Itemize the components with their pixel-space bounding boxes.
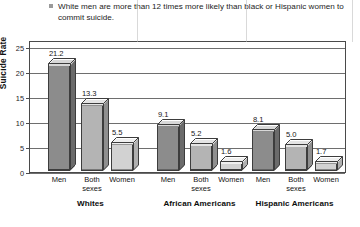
bar-value-label: 5.5 <box>112 128 122 137</box>
y-tick-5 <box>26 148 30 149</box>
bar-side-face <box>70 60 75 171</box>
category-label: Women <box>218 176 244 185</box>
bar-value-label: 1.7 <box>316 147 326 156</box>
plot-area: 051015202521.213.35.59.15.21.68.15.01.7 <box>29 41 346 173</box>
gridline-15 <box>30 98 345 99</box>
y-tick-25 <box>26 48 30 49</box>
bar-front-face <box>190 145 212 171</box>
bar-side-face <box>103 100 108 172</box>
gridline-20 <box>30 73 345 74</box>
gridline-10 <box>30 123 345 124</box>
scan-artifact <box>246 0 247 42</box>
category-label: Men <box>256 176 271 185</box>
bar-value-label: 8.1 <box>253 115 263 124</box>
y-tick-label-10: 10 <box>16 119 24 128</box>
bar-value-label: 13.3 <box>82 89 96 98</box>
bar <box>315 163 337 172</box>
group-label: Hispanic Americans <box>256 199 334 208</box>
caption-text: White men are more than 12 times more li… <box>58 2 344 22</box>
bullet-icon <box>49 4 53 8</box>
scan-artifact <box>137 0 138 42</box>
y-tick-label-20: 20 <box>16 69 24 78</box>
y-axis-title: Suicide Rate <box>0 37 8 90</box>
chart-screenshot: White men are more than 12 times more li… <box>0 0 360 227</box>
group-label: Whites <box>77 199 104 208</box>
bar-side-face <box>274 126 279 172</box>
bar-front-face <box>220 163 242 171</box>
category-label: Bothsexes <box>191 176 211 193</box>
category-label: Men <box>161 176 176 185</box>
bar-value-label: 5.0 <box>286 130 296 139</box>
bar <box>111 144 133 172</box>
bar-front-face <box>157 126 179 172</box>
category-label: Men <box>52 176 67 185</box>
category-label: Women <box>109 176 135 185</box>
bar <box>48 65 70 171</box>
chart-caption: White men are more than 12 times more li… <box>58 1 348 23</box>
group-label: African Americans <box>163 199 235 208</box>
y-tick-15 <box>26 98 30 99</box>
y-tick-0 <box>26 173 30 174</box>
bar <box>190 145 212 171</box>
bar-side-face <box>179 121 184 172</box>
bar-value-label: 21.2 <box>49 49 63 58</box>
bar <box>81 105 103 172</box>
bar-front-face <box>315 163 337 172</box>
bar <box>285 146 307 171</box>
y-tick-label-5: 5 <box>20 144 24 153</box>
bar-value-label: 5.2 <box>191 129 201 138</box>
bar <box>220 163 242 171</box>
y-tick-label-15: 15 <box>16 94 24 103</box>
gridline-0 <box>30 173 345 174</box>
y-tick-10 <box>26 123 30 124</box>
scan-artifact <box>352 0 353 42</box>
y-tick-label-25: 25 <box>16 44 24 53</box>
bar-front-face <box>285 146 307 171</box>
gridline-25 <box>30 48 345 49</box>
category-label: Bothsexes <box>286 176 306 193</box>
category-label: Bothsexes <box>82 176 102 193</box>
bar-value-label: 1.6 <box>221 147 231 156</box>
category-label: Women <box>313 176 339 185</box>
bar-front-face <box>48 65 70 171</box>
bar-value-label: 9.1 <box>158 110 168 119</box>
bar-front-face <box>111 144 133 172</box>
y-tick-20 <box>26 73 30 74</box>
bar <box>252 131 274 172</box>
bar-front-face <box>81 105 103 172</box>
y-tick-label-0: 0 <box>20 169 24 178</box>
bar <box>157 126 179 172</box>
bar-front-face <box>252 131 274 172</box>
